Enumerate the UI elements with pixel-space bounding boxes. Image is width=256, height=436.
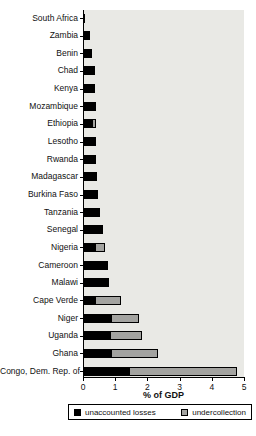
category-label: Zambia (0, 30, 78, 41)
bar-unaccounted-losses (84, 119, 92, 128)
category-label: Senegal (0, 224, 78, 235)
bar-undercollection (111, 314, 138, 323)
legend-label-unaccounted-losses: unaccounted losses (85, 408, 156, 417)
y-axis-tick (80, 212, 83, 213)
bar-unaccounted-losses (84, 225, 103, 234)
y-axis-tick (80, 283, 83, 284)
category-label: Kenya (0, 83, 78, 94)
x-axis-line (83, 377, 245, 378)
bar-unaccounted-losses (84, 66, 95, 75)
bar-unaccounted-losses (84, 349, 111, 358)
bar-unaccounted-losses (84, 190, 98, 199)
bar-unaccounted-losses (84, 261, 108, 270)
category-label: Rwanda (0, 154, 78, 165)
bar-undercollection (129, 367, 237, 376)
legend: unaccounted losses undercollection (68, 404, 252, 420)
y-axis-tick (80, 89, 83, 90)
bar-unaccounted-losses (84, 49, 92, 58)
bar-unaccounted-losses (84, 172, 97, 181)
category-label: Tanzania (0, 207, 78, 218)
y-axis-tick (80, 353, 83, 354)
y-axis-tick (80, 18, 83, 19)
y-axis-tick (80, 142, 83, 143)
y-axis-tick (80, 159, 83, 160)
category-label: Benin (0, 48, 78, 59)
y-axis-tick (80, 177, 83, 178)
category-label: Chad (0, 65, 78, 76)
bar-unaccounted-losses (84, 314, 111, 323)
bar-unaccounted-losses (84, 278, 107, 287)
legend-item-undercollection: undercollection (181, 408, 246, 417)
y-axis-tick (80, 124, 83, 125)
category-label: Uganda (0, 330, 78, 341)
category-label: Lesotho (0, 136, 78, 147)
unaccounted-losses-swatch-icon (74, 409, 81, 416)
category-label: Nigeria (0, 242, 78, 253)
y-axis-tick (80, 247, 83, 248)
y-axis-tick (80, 371, 83, 372)
bar-undercollection (95, 296, 121, 305)
y-axis-tick (80, 265, 83, 266)
y-axis-tick (80, 71, 83, 72)
x-axis-tick (212, 378, 213, 381)
category-label: Malawi (0, 277, 78, 288)
bar-undercollection (111, 349, 158, 358)
legend-item-unaccounted-losses: unaccounted losses (74, 408, 156, 417)
category-label: Madagascar (0, 171, 78, 182)
category-label: Congo, Dem. Rep. of (0, 366, 78, 377)
category-label: Ghana (0, 348, 78, 359)
y-axis-tick (80, 36, 83, 37)
bar-undercollection (110, 331, 142, 340)
bar-unaccounted-losses (84, 243, 95, 252)
category-label: Ethiopia (0, 118, 78, 129)
y-axis-tick (80, 106, 83, 107)
x-axis-tick (180, 378, 181, 381)
bar-unaccounted-losses (84, 84, 95, 93)
legend-label-undercollection: undercollection (192, 408, 246, 417)
category-label: South Africa (0, 13, 78, 24)
bar-unaccounted-losses (84, 31, 90, 40)
y-axis-tick (80, 336, 83, 337)
undercollection-swatch-icon (181, 409, 188, 416)
y-axis-tick (80, 300, 83, 301)
y-axis-tick (80, 230, 83, 231)
y-axis-tick (80, 53, 83, 54)
bar-unaccounted-losses (84, 14, 85, 23)
x-axis-tick (244, 378, 245, 381)
hidden-costs-bar-chart: South AfricaZambiaBeninChadKenyaMozambiq… (0, 0, 256, 436)
bar-unaccounted-losses (84, 137, 96, 146)
category-label: Niger (0, 313, 78, 324)
y-axis-tick (80, 195, 83, 196)
bar-unaccounted-losses (84, 296, 95, 305)
x-axis-tick (115, 378, 116, 381)
y-axis-tick (80, 318, 83, 319)
bar-unaccounted-losses (84, 208, 100, 217)
bar-unaccounted-losses (84, 155, 96, 164)
bar-unaccounted-losses (84, 367, 129, 376)
bar-undercollection (92, 119, 97, 128)
category-label: Cape Verde (0, 295, 78, 306)
bar-unaccounted-losses (84, 331, 110, 340)
category-label: Burkina Faso (0, 189, 78, 200)
bar-unaccounted-losses (84, 102, 96, 111)
category-label: Cameroon (0, 260, 78, 271)
x-axis-tick (83, 378, 84, 381)
category-label: Mozambique (0, 101, 78, 112)
bar-undercollection (107, 278, 110, 287)
x-axis-tick (147, 378, 148, 381)
bar-undercollection (95, 243, 105, 252)
x-axis-title: % of GDP (83, 390, 244, 400)
